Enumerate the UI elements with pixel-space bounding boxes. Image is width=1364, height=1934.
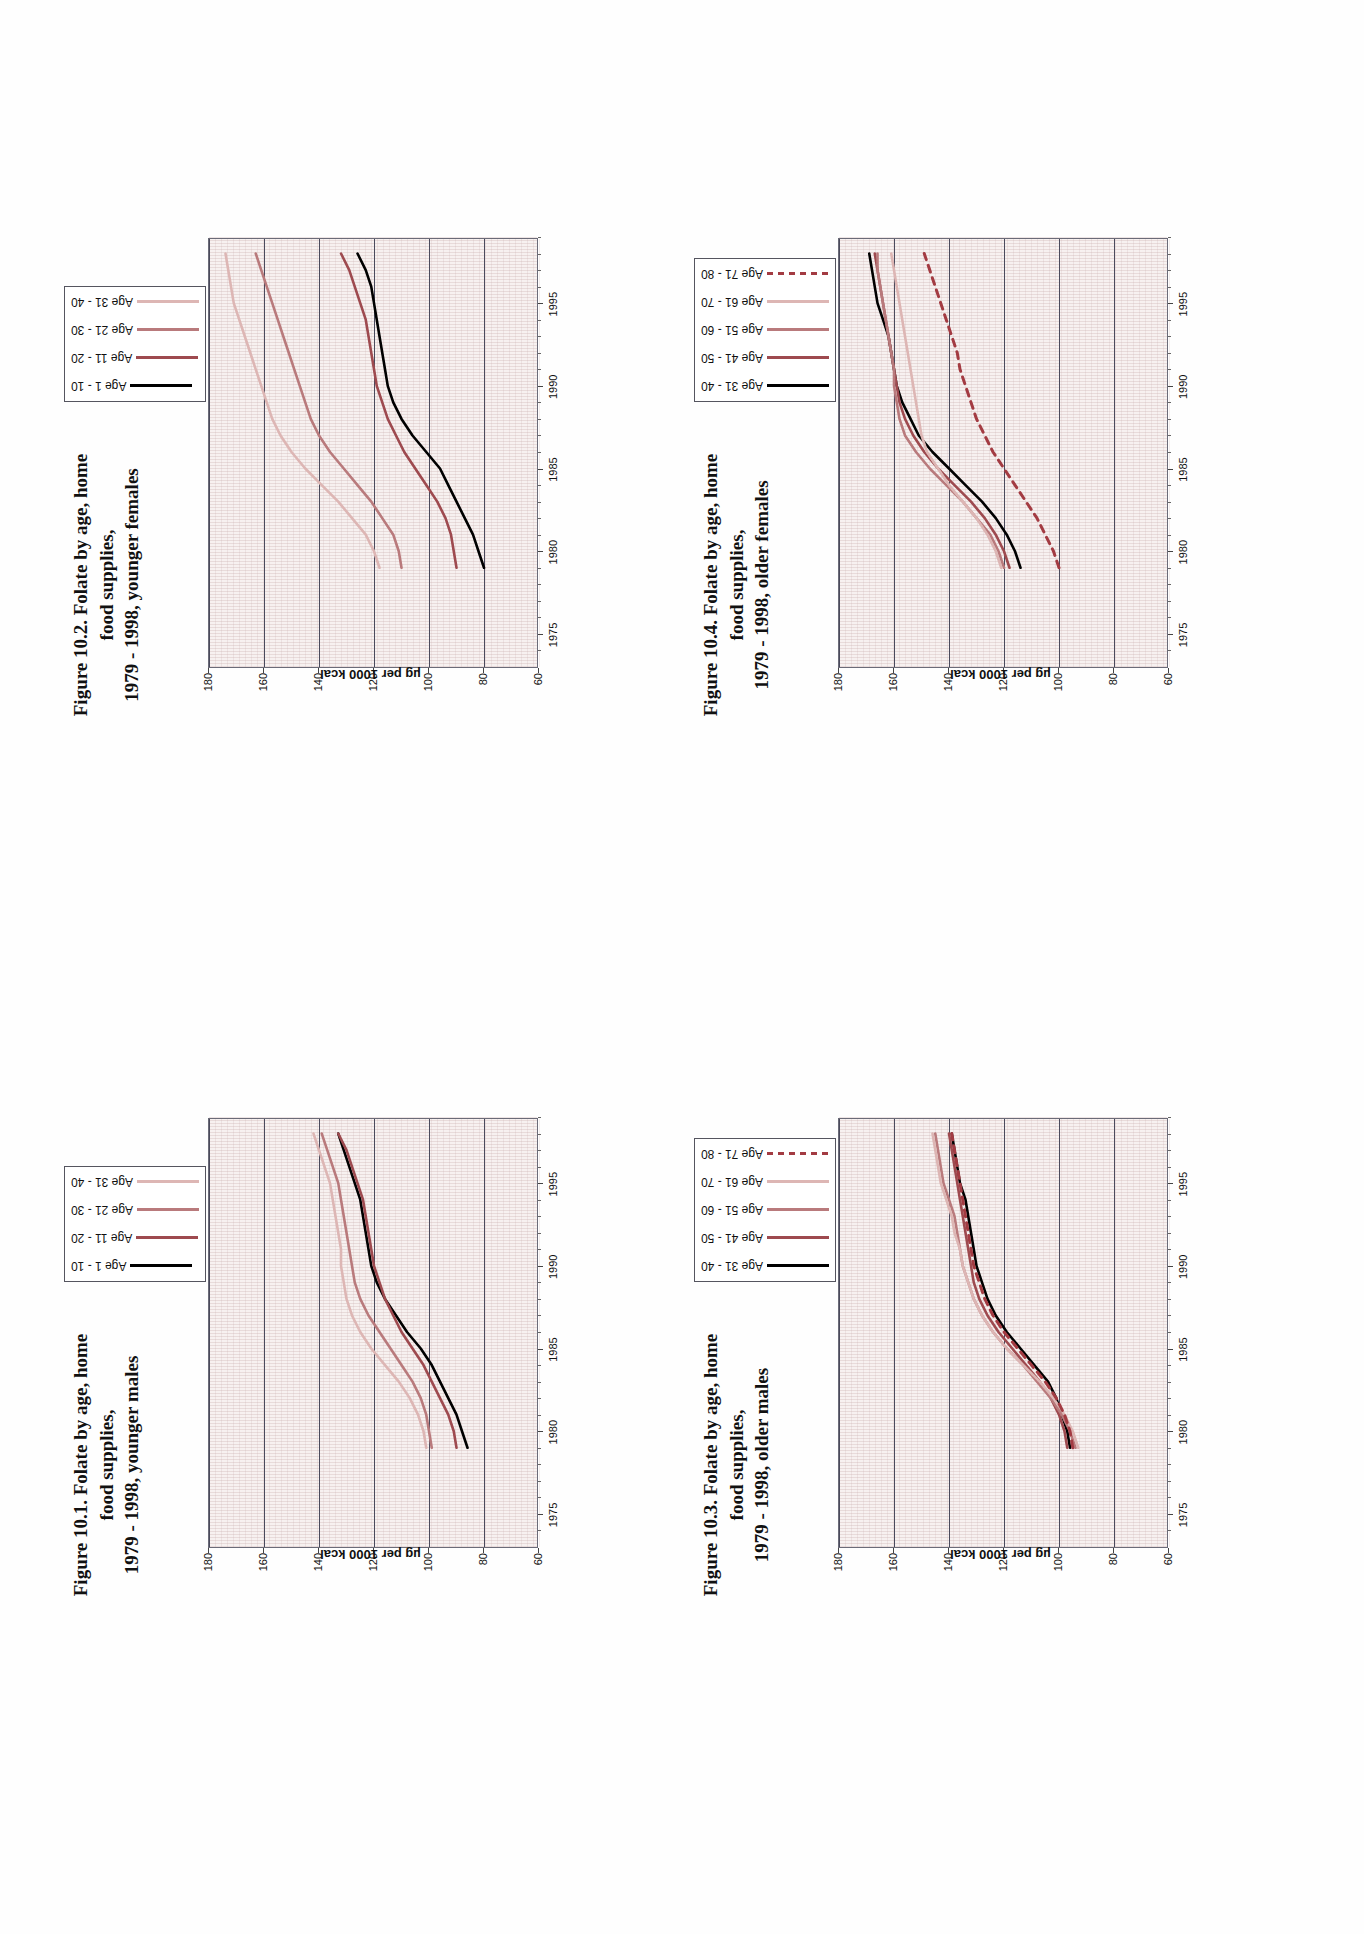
figure-title: Figure 10.3. Folate by age, home food su… — [698, 1330, 775, 1600]
legend-item[interactable]: Age 41 - 50 — [701, 351, 829, 365]
legend-item[interactable]: Age 31 - 40 — [71, 295, 199, 309]
chart-legend[interactable]: Age 31 - 40Age 41 - 50Age 51 - 60Age 61 … — [694, 1138, 836, 1282]
x-axis-tick-mark — [538, 1514, 543, 1515]
legend-item[interactable]: Age 71 - 80 — [701, 1147, 829, 1161]
figure-panel-10-2: Figure 10.2. Folate by age, home food su… — [60, 60, 680, 760]
legend-swatch-icon — [767, 385, 829, 388]
legend-item[interactable]: Age 31 - 40 — [701, 1259, 829, 1273]
x-axis-tick-mark — [538, 1117, 541, 1118]
x-axis-tick-mark — [538, 1431, 543, 1432]
legend-swatch-icon — [767, 357, 829, 360]
legend-item[interactable]: Age 31 - 40 — [71, 1175, 199, 1189]
x-axis-tick-label: 1975 — [547, 623, 559, 647]
figure-panel-10-1: Figure 10.1. Folate by age, home food su… — [60, 940, 680, 1640]
x-axis-tick-label: 1980 — [547, 540, 559, 564]
y-axis-tick-mark — [208, 668, 209, 673]
x-axis-tick-mark — [538, 287, 541, 288]
plot-canvas — [838, 1118, 1168, 1548]
x-axis-tick-mark — [1168, 237, 1171, 238]
x-axis-tick-label: 1990 — [547, 1255, 559, 1279]
x-axis-tick-label: 1990 — [547, 375, 559, 399]
x-axis-tick-label: 1985 — [547, 457, 559, 481]
legend-swatch-icon — [767, 1265, 829, 1268]
legend-label: Age 21 - 30 — [71, 1203, 133, 1217]
x-axis-tick-mark — [1168, 1497, 1171, 1498]
y-axis-tick-mark — [483, 668, 484, 673]
series-line — [933, 1134, 1079, 1448]
x-axis-tick-mark — [538, 1382, 541, 1383]
x-axis-tick-mark — [1168, 1365, 1171, 1366]
x-axis-tick-mark — [1168, 1530, 1171, 1531]
chart-legend[interactable]: Age 1 - 10Age 11 - 20Age 21 - 30Age 31 -… — [64, 1166, 206, 1282]
figure-title: Figure 10.1. Folate by age, home food su… — [68, 1330, 145, 1600]
x-axis-tick-mark — [1168, 601, 1171, 602]
x-axis-tick-mark — [1168, 650, 1171, 651]
x-axis-tick-label: 1990 — [1177, 1255, 1189, 1279]
x-axis-tick-mark — [1168, 1183, 1173, 1184]
legend-item[interactable]: Age 51 - 60 — [701, 1203, 829, 1217]
x-axis-tick-mark — [538, 386, 543, 387]
x-axis-tick-mark — [538, 1167, 541, 1168]
y-axis-label: µg per 1000 kcal — [291, 667, 451, 682]
x-axis-tick-label: 1975 — [1177, 1503, 1189, 1527]
x-axis-tick-label: 1975 — [1177, 623, 1189, 647]
legend-item[interactable]: Age 11 - 20 — [71, 1231, 198, 1245]
x-axis-tick-mark — [1168, 1266, 1173, 1267]
legend-label: Age 21 - 30 — [71, 323, 133, 337]
x-axis-tick-mark — [538, 303, 543, 304]
x-axis-tick-mark — [1168, 452, 1171, 453]
legend-swatch-icon — [137, 1181, 199, 1184]
x-axis-tick-mark — [1168, 1382, 1171, 1383]
plot-area: 1801601401201008060µg per 1000 kcal19751… — [208, 238, 538, 668]
legend-item[interactable]: Age 1 - 10 — [71, 1259, 192, 1273]
chart-legend[interactable]: Age 1 - 10Age 11 - 20Age 21 - 30Age 31 -… — [64, 286, 206, 402]
x-axis-tick-mark — [538, 469, 543, 470]
legend-item[interactable]: Age 51 - 60 — [701, 323, 829, 337]
x-axis-tick-mark — [538, 435, 541, 436]
x-axis-tick-mark — [1168, 485, 1171, 486]
legend-item[interactable]: Age 41 - 50 — [701, 1231, 829, 1245]
x-axis-tick-mark — [1168, 287, 1171, 288]
legend-item[interactable]: Age 61 - 70 — [701, 1175, 829, 1189]
x-axis-tick-mark — [1168, 1299, 1171, 1300]
x-axis-tick-mark — [538, 336, 541, 337]
x-axis-tick-label: 1990 — [1177, 375, 1189, 399]
legend-label: Age 61 - 70 — [701, 1175, 763, 1189]
legend-item[interactable]: Age 21 - 30 — [71, 323, 199, 337]
x-axis-tick-mark — [538, 1332, 541, 1333]
x-axis-tick-mark — [1168, 254, 1171, 255]
x-axis-tick-mark — [1168, 1431, 1173, 1432]
document-page: Figure 10.1. Folate by age, home food su… — [0, 0, 1364, 1934]
x-axis-tick-mark — [1168, 1134, 1171, 1135]
legend-item[interactable]: Age 71 - 80 — [701, 267, 829, 281]
legend-item[interactable]: Age 11 - 20 — [71, 351, 198, 365]
legend-label: Age 1 - 10 — [71, 379, 126, 393]
x-axis-tick-mark — [1168, 1117, 1171, 1118]
x-axis-tick-mark — [1168, 634, 1173, 635]
figure-panel-10-3: Figure 10.3. Folate by age, home food su… — [690, 940, 1310, 1640]
y-axis-tick-mark — [538, 668, 539, 673]
legend-item[interactable]: Age 31 - 40 — [701, 379, 829, 393]
legend-item[interactable]: Age 1 - 10 — [71, 379, 192, 393]
legend-item[interactable]: Age 21 - 30 — [71, 1203, 199, 1217]
x-axis-tick-label: 1995 — [1177, 292, 1189, 316]
legend-swatch-icon — [130, 385, 192, 388]
plot-area: 1801601401201008060µg per 1000 kcal19751… — [208, 1118, 538, 1548]
x-axis-tick-mark — [1168, 535, 1171, 536]
chart-legend[interactable]: Age 31 - 40Age 41 - 50Age 51 - 60Age 61 … — [694, 258, 836, 402]
legend-item[interactable]: Age 61 - 70 — [701, 295, 829, 309]
legend-swatch-icon — [130, 1265, 192, 1268]
x-axis-tick-label: 1985 — [1177, 1337, 1189, 1361]
series-layer — [839, 1117, 1169, 1547]
x-axis-tick-mark — [1168, 1315, 1171, 1316]
x-axis-tick-mark — [1168, 1464, 1171, 1465]
series-layer — [839, 237, 1169, 667]
x-axis-tick-mark — [538, 1216, 541, 1217]
plot-canvas — [208, 238, 538, 668]
x-axis-tick-mark — [1168, 1481, 1171, 1482]
x-axis-tick-mark — [538, 1183, 543, 1184]
x-axis-tick-mark — [1168, 1200, 1171, 1201]
x-axis-tick-mark — [1168, 402, 1171, 403]
y-axis-label: µg per 1000 kcal — [291, 1547, 451, 1562]
series-line — [875, 254, 1010, 568]
